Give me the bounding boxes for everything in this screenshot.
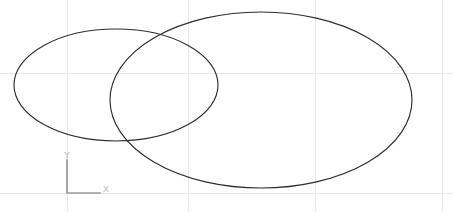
cad-viewport[interactable]: Y X <box>0 0 453 212</box>
ucs-icon[interactable]: Y X <box>64 150 109 194</box>
drawing-canvas[interactable]: Y X <box>0 0 453 212</box>
ucs-axis-arms <box>67 160 100 193</box>
ellipse-large[interactable] <box>110 12 412 188</box>
ucs-y-axis-label: Y <box>64 150 70 160</box>
ucs-x-axis-label: X <box>103 184 109 194</box>
grid-layer <box>0 0 453 212</box>
entity-layer[interactable] <box>14 12 412 188</box>
